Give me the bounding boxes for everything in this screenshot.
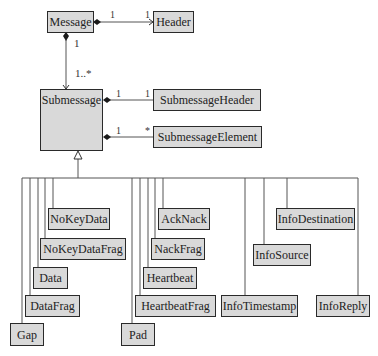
class-data-label: Data: [39, 272, 62, 284]
class-nack-frag-label: NackFrag: [154, 243, 201, 255]
mult-message-header-dst: 1: [145, 10, 150, 20]
class-gap-label: Gap: [17, 329, 37, 341]
class-header: Header: [153, 11, 194, 33]
class-submessage-label: Submessage: [42, 94, 101, 106]
class-info-source: InfoSource: [253, 244, 311, 266]
class-submessage-element: SubmessageElement: [153, 126, 262, 148]
class-submessage-header: SubmessageHeader: [153, 89, 261, 111]
class-info-timestamp-label: InfoTimestamp: [223, 300, 297, 312]
class-submessage-element-label: SubmessageElement: [158, 131, 257, 143]
class-header-label: Header: [156, 16, 191, 28]
class-ack-nack-label: AckNack: [161, 213, 206, 225]
class-info-reply-label: InfoReply: [319, 300, 368, 312]
mult-message-submessage-src: 1: [74, 38, 80, 49]
class-message-label: Message: [50, 16, 92, 28]
class-heartbeat-label: Heartbeat: [147, 272, 194, 284]
class-info-destination-label: InfoDestination: [278, 213, 353, 225]
class-submessage-header-label: SubmessageHeader: [160, 94, 254, 106]
mult-sub-element-src: 1: [116, 126, 121, 136]
class-no-key-data-label: NoKeyData: [50, 213, 107, 225]
mult-sub-header-src: 1: [116, 89, 121, 99]
class-message: Message: [47, 11, 94, 33]
class-ack-nack: AckNack: [158, 208, 210, 230]
class-heartbeat-frag-label: HeartbeatFrag: [141, 300, 210, 312]
class-data-frag: DataFrag: [25, 295, 80, 317]
class-gap: Gap: [10, 323, 44, 346]
class-heartbeat-frag: HeartbeatFrag: [135, 295, 216, 317]
class-data-frag-label: DataFrag: [30, 300, 75, 312]
class-pad: Pad: [121, 323, 155, 346]
class-info-timestamp: InfoTimestamp: [221, 295, 298, 317]
class-no-key-data: NoKeyData: [48, 208, 110, 230]
class-info-source-label: InfoSource: [255, 249, 308, 261]
class-heartbeat: Heartbeat: [143, 267, 197, 289]
mult-sub-element-dst: *: [145, 126, 150, 136]
mult-message-header-src: 1: [110, 10, 115, 20]
class-pad-label: Pad: [129, 329, 147, 341]
class-no-key-data-frag-label: NoKeyDataFrag: [43, 243, 122, 255]
mult-message-submessage-dst: 1..*: [75, 68, 92, 79]
class-nack-frag: NackFrag: [151, 238, 205, 260]
mult-sub-header-dst: 1: [145, 89, 150, 99]
class-data: Data: [33, 267, 68, 289]
class-info-destination: InfoDestination: [276, 208, 355, 230]
class-submessage: Submessage: [40, 89, 103, 151]
class-no-key-data-frag: NoKeyDataFrag: [40, 238, 126, 260]
class-info-reply: InfoReply: [316, 295, 370, 317]
